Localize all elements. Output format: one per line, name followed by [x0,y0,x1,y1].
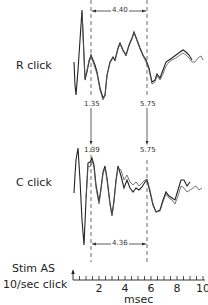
r-click-trace-1 [74,10,192,98]
r-marker-1-label: 1.35 [84,100,100,108]
arrowhead-icon [142,10,146,13]
c-click-label: C click [16,176,52,189]
r-interval-label: 4.40 [112,6,128,14]
stim-label-line1: Stim AS [12,262,55,275]
stimulus-arrow-icon [71,269,74,274]
arrowhead-icon [92,243,96,246]
stim-label-line2: 10/sec click [3,278,67,291]
waveform-figure [0,0,208,305]
c-click-trace-2 [86,160,202,216]
x-axis-title: msec [124,293,153,305]
arrowhead-icon [142,243,146,246]
r-marker-2-label: 5.75 [140,100,156,108]
c-marker-1-label: 1.39 [84,146,100,154]
x-tick-label-8: 8 [174,282,181,295]
c-marker-2-label: 5.75 [140,146,156,154]
x-tick-label-10: 10 [196,282,208,295]
arrowhead-icon [90,141,93,145]
x-axis-ticks [80,276,204,280]
arrowhead-icon [92,10,96,13]
c-interval-label: 4.36 [112,239,128,247]
r-click-label: R click [16,59,52,72]
x-tick-label-2: 2 [96,282,103,295]
arrowhead-icon [146,141,149,145]
